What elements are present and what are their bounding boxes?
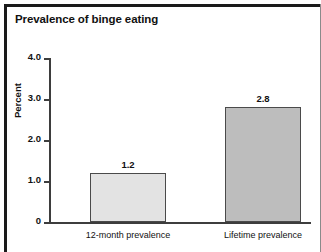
y-tick-label: 1.0: [28, 174, 41, 185]
frame-left-rule: [4, 4, 7, 252]
y-axis-line: [49, 58, 51, 224]
category-label: 12-month prevalence: [86, 230, 171, 240]
frame-top-rule: [4, 4, 321, 7]
y-tick-mark: [44, 140, 49, 142]
y-tick-label: 0: [36, 215, 41, 226]
y-tick-label: 4.0: [28, 51, 41, 62]
y-tick-label: 2.0: [28, 133, 41, 144]
bar: 2.8: [225, 107, 301, 222]
chart-title: Prevalence of binge eating: [15, 13, 158, 25]
y-tick-label: 3.0: [28, 92, 41, 103]
bar-value-label: 2.8: [256, 93, 269, 104]
y-tick-mark: [44, 181, 49, 183]
y-tick-mark: [44, 99, 49, 101]
bar-value-label: 1.2: [121, 159, 134, 170]
plot-area: 01.02.03.04.0 1.22.8 12-month prevalence…: [49, 58, 311, 224]
bar: 1.2: [90, 173, 166, 222]
y-tick-mark: [44, 58, 49, 60]
x-axis-line: [49, 222, 311, 224]
y-axis-label: Percent: [12, 83, 23, 118]
category-label: Lifetime prevalence: [224, 230, 302, 240]
chart-figure: Prevalence of binge eating 01.02.03.04.0…: [0, 0, 321, 252]
y-tick-mark: [44, 222, 49, 224]
